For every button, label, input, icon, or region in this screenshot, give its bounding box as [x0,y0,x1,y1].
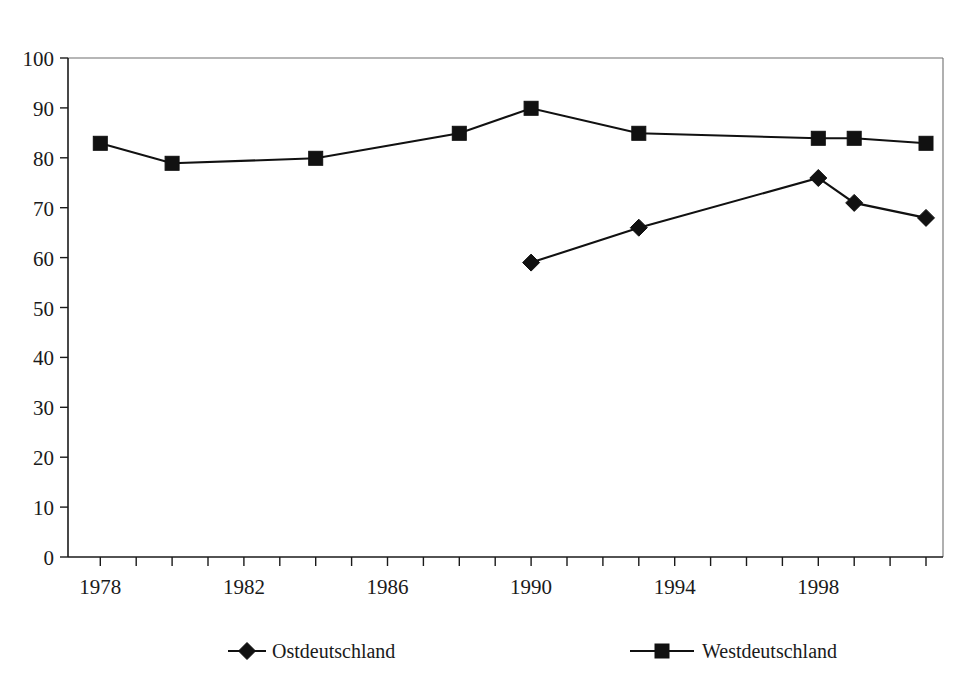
x-tick-label-1982: 1982 [223,575,265,599]
y-tick-label-20: 20 [33,446,54,470]
data-point-ost-1990 [523,254,540,271]
x-axis-labels: 1978 1982 1986 1990 1994 1998 [79,575,839,599]
y-tick-label-50: 50 [33,297,54,321]
legend-item-ostdeutschland: Ostdeutschland [228,640,395,662]
data-point-west-1993 [632,126,646,140]
data-point-west-1999 [847,131,861,145]
y-tick-label-10: 10 [33,496,54,520]
y-tick-label-100: 100 [23,47,55,71]
y-tick-label-70: 70 [33,197,54,221]
data-point-ost-1999 [846,194,863,211]
y-axis-labels: 100 90 80 70 60 50 40 30 20 10 0 [23,47,55,570]
y-tick-label-60: 60 [33,247,54,271]
legend-marker-square-icon [655,644,669,658]
x-tick-label-1998: 1998 [797,575,839,599]
y-axis: 100 90 80 70 60 50 40 30 20 10 0 [23,47,69,570]
chart-legend: Ostdeutschland Westdeutschland [228,640,837,662]
x-axis-ticks [100,557,926,566]
legend-item-westdeutschland: Westdeutschland [630,640,837,662]
y-tick-label-40: 40 [33,346,54,370]
data-point-west-2001 [919,136,933,150]
chart-canvas: 100 90 80 70 60 50 40 30 20 10 0 [0,0,978,687]
data-point-west-1990 [524,101,538,115]
y-tick-label-0: 0 [44,546,55,570]
x-axis: 1978 1982 1986 1990 1994 1998 [68,557,943,599]
data-point-ost-1993 [630,219,647,236]
x-tick-label-1994: 1994 [654,575,697,599]
legend-label-ostdeutschland: Ostdeutschland [272,640,395,662]
y-tick-label-90: 90 [33,97,54,121]
data-point-west-1978 [93,136,107,150]
x-tick-label-1986: 1986 [367,575,409,599]
data-point-west-1998 [811,131,825,145]
data-point-ost-1998 [810,170,827,187]
x-tick-label-1990: 1990 [510,575,552,599]
data-point-west-1984 [309,151,323,165]
series-line-westdeutschland [100,108,926,163]
y-tick-label-80: 80 [33,147,54,171]
series-line-ostdeutschland [531,178,926,263]
legend-label-westdeutschland: Westdeutschland [702,640,837,662]
data-point-west-1980 [165,156,179,170]
data-point-west-1988 [452,126,466,140]
legend-marker-diamond-icon [239,643,256,660]
line-chart: 100 90 80 70 60 50 40 30 20 10 0 [0,0,978,687]
series-westdeutschland [93,101,933,170]
y-axis-ticks [60,58,68,557]
y-tick-label-30: 30 [33,396,54,420]
data-point-ost-2001 [918,209,935,226]
series-ostdeutschland [523,170,935,272]
x-tick-label-1978: 1978 [79,575,121,599]
